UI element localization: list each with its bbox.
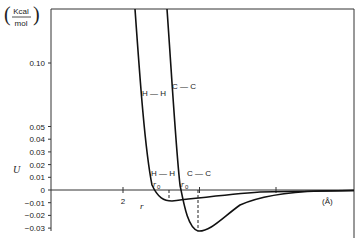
y-tick-label: 0: [41, 186, 46, 195]
cc-lower-label: C — C: [187, 169, 211, 178]
y-tick-label: 0.03: [29, 148, 45, 157]
y-unit-denominator: mol: [15, 19, 28, 28]
y-ticks: −0.03−0.02−0.0100.010.020.030.040.050.10: [25, 59, 51, 233]
y-tick-label: 0.04: [29, 135, 45, 144]
y-axis-label: U: [13, 164, 21, 175]
y-tick-label: 0.01: [29, 173, 45, 182]
y-tick-label: 0.05: [29, 123, 45, 132]
hh-r0-label: r 0: [153, 180, 161, 190]
y-tick-label: −0.01: [25, 199, 46, 208]
potential-energy-chart: −0.03−0.02−0.0100.010.020.030.040.050.10…: [0, 0, 362, 243]
y-unit: ( Kcal mol ): [4, 3, 40, 28]
svg-text:(: (: [4, 3, 11, 26]
x-tick-label: 2: [121, 197, 126, 206]
cc-upper-label: C — C: [172, 82, 196, 91]
x-axis-unit: (Å): [322, 197, 333, 206]
svg-text:): ): [33, 3, 40, 26]
svg-text:0: 0: [157, 184, 161, 190]
hh-lower-label: H — H: [151, 169, 175, 178]
y-tick-label: 0.02: [29, 161, 45, 170]
y-tick-label: −0.02: [25, 211, 46, 220]
svg-text:0: 0: [185, 184, 189, 190]
x-axis-label: r: [140, 201, 144, 211]
hh-upper-label: H — H: [142, 89, 166, 98]
cc-r0-label: r 0: [181, 180, 189, 190]
y-tick-label: −0.03: [25, 224, 46, 233]
y-unit-numerator: Kcal: [13, 7, 29, 16]
y-tick-label: 0.10: [29, 59, 45, 68]
